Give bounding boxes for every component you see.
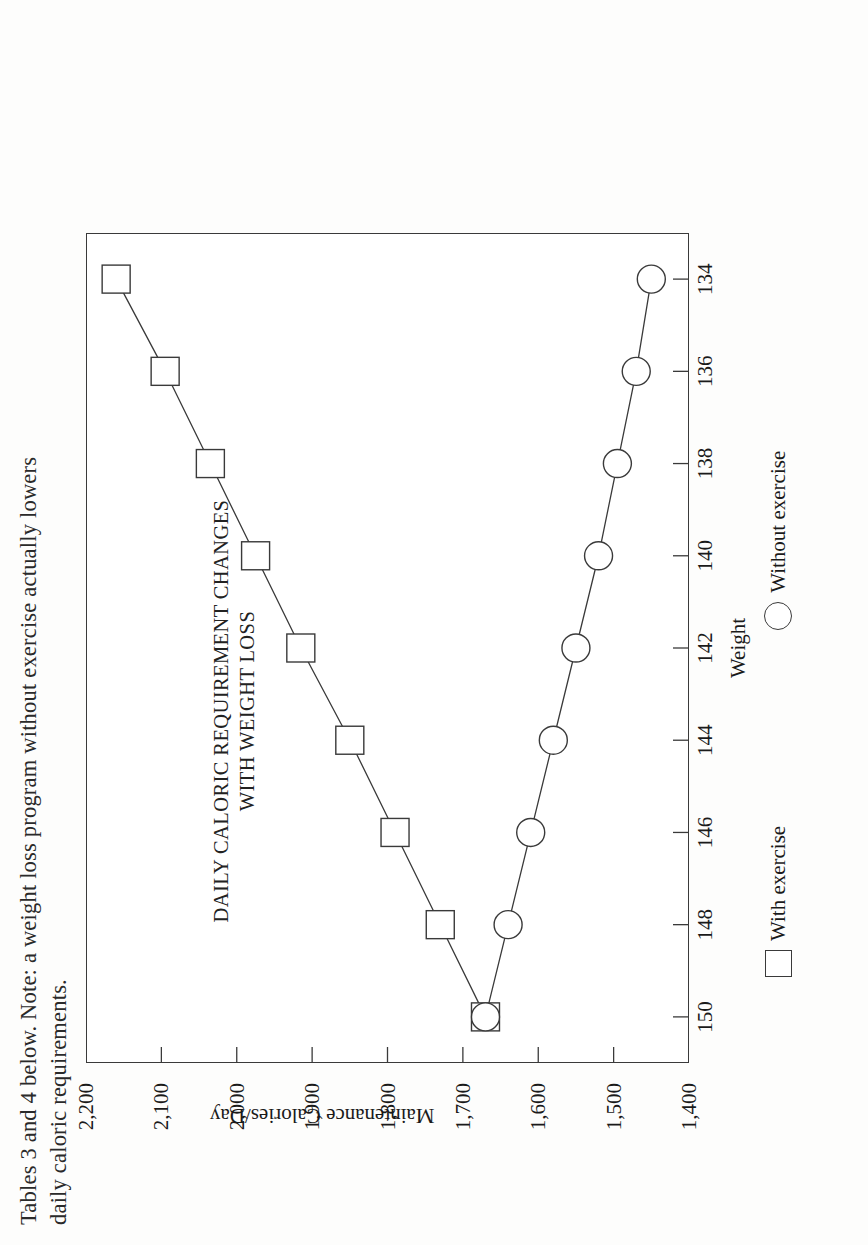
series-with-exercise	[102, 265, 499, 1031]
x-tick-label: 140	[693, 540, 718, 572]
y-tick-label: 1,600	[526, 1083, 551, 1130]
y-tick-label: 2,100	[149, 1083, 174, 1130]
x-axis-title: Weight	[726, 233, 751, 1063]
chart-figure: DAILY CALORIC REQUIREMENT CHANGES WITH W…	[76, 156, 766, 1181]
legend-item-without-exercise: Without exercise	[764, 451, 792, 630]
x-axis-tick-labels: 150148146144142140138136134	[689, 233, 729, 1063]
book-page: Tables 3 and 4 below. Note: a weight los…	[0, 0, 868, 1245]
x-tick-label: 142	[693, 632, 718, 664]
x-tick-label: 134	[693, 263, 718, 295]
y-tick-label: 2,200	[74, 1083, 99, 1130]
circle-marker-icon	[764, 602, 792, 630]
legend-label-with-exercise: With exercise	[766, 826, 791, 941]
x-tick-label: 150	[693, 1001, 718, 1033]
y-axis-ticks	[161, 1047, 613, 1063]
x-tick-label: 138	[693, 448, 718, 480]
square-marker-icon	[765, 950, 792, 977]
y-axis-title: Maintenance Calories/Day	[215, 1103, 435, 1128]
x-tick-label: 136	[693, 356, 718, 388]
chart-legend: With exercise Without exercise	[764, 233, 792, 1063]
legend-item-with-exercise: With exercise	[765, 826, 792, 977]
body-text-line-1: Tables 3 and 4 below. Note: a weight los…	[16, 457, 41, 1225]
series-without-exercise	[471, 265, 665, 1031]
x-tick-label: 148	[693, 909, 718, 941]
y-tick-label: 1,400	[677, 1083, 702, 1130]
x-axis-ticks	[673, 279, 689, 1017]
page-body-text: Tables 3 and 4 below. Note: a weight los…	[14, 75, 74, 1225]
body-text-line-2: daily caloric requirements.	[44, 75, 74, 1225]
x-tick-label: 144	[693, 724, 718, 756]
chart-plot-svg	[86, 233, 689, 1063]
y-tick-label: 1,700	[450, 1083, 475, 1130]
legend-label-without-exercise: Without exercise	[766, 451, 791, 593]
scanned-page-stage: Tables 3 and 4 below. Note: a weight los…	[0, 0, 868, 1245]
x-tick-label: 146	[693, 817, 718, 849]
y-tick-label: 1,500	[601, 1083, 626, 1130]
